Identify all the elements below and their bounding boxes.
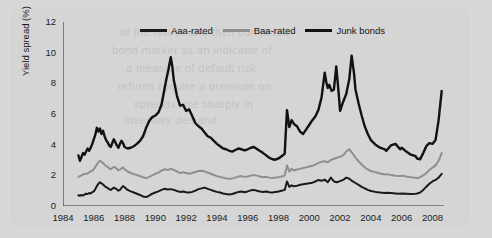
y-tick-label: 8: [34, 77, 56, 88]
y-axis-label: Yield spread (%): [20, 6, 31, 76]
y-tick-label: 10: [34, 47, 56, 58]
x-tick-label: 1996: [231, 212, 265, 223]
plot-area: [63, 22, 444, 206]
x-tick-label: 1990: [138, 212, 172, 223]
x-tick-label: 2004: [354, 212, 388, 223]
y-tick-label: 0: [34, 200, 56, 211]
x-tick-label: 2000: [292, 212, 326, 223]
y-tick-label: 12: [34, 16, 56, 27]
x-tick-label: 1984: [46, 212, 80, 223]
x-tick-label: 1994: [200, 212, 234, 223]
x-tick-label: 1988: [108, 212, 142, 223]
x-tick-label: 2008: [415, 212, 449, 223]
x-tick-label: 1998: [262, 212, 296, 223]
x-tick-label: 1992: [169, 212, 203, 223]
series-line-junk-bonds: [78, 56, 441, 161]
x-tick-label: 1986: [77, 212, 111, 223]
x-tick-label: 2006: [385, 212, 419, 223]
chart-svg: [63, 22, 444, 206]
y-tick-label: 6: [34, 108, 56, 119]
x-tick-label: 2002: [323, 212, 357, 223]
y-tick-label: 4: [34, 139, 56, 150]
series-line-baa-rated: [78, 149, 441, 178]
y-tick-label: 2: [34, 169, 56, 180]
figure-container: of the issuer and then computedbond mark…: [0, 0, 492, 238]
